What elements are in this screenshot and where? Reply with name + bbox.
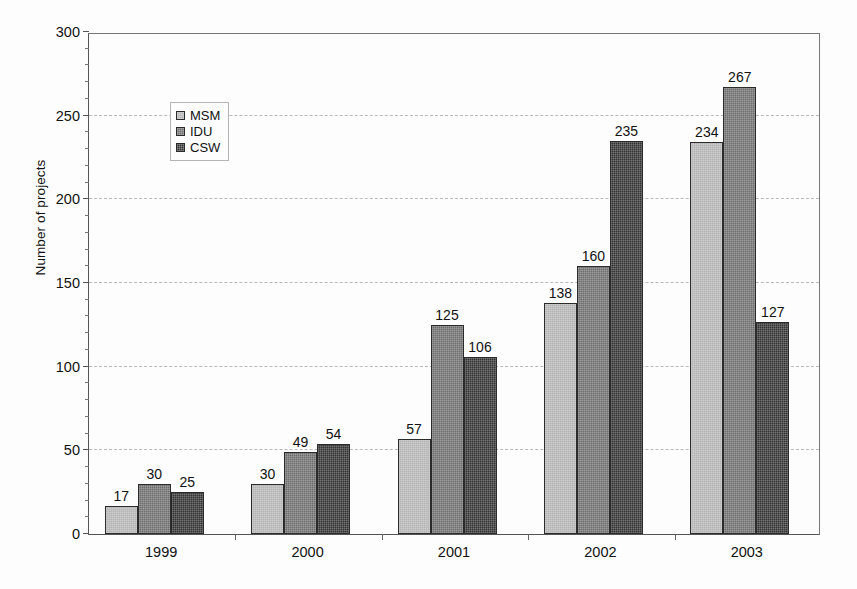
bar-value-label: 30 bbox=[260, 466, 276, 482]
bar: 234 bbox=[690, 142, 723, 534]
bar: 125 bbox=[431, 325, 464, 534]
y-tick-label: 50 bbox=[64, 442, 80, 458]
legend-item: MSM bbox=[176, 108, 220, 123]
bar: 106 bbox=[464, 357, 497, 534]
x-tick-label: 2003 bbox=[731, 544, 763, 560]
bar: 160 bbox=[577, 266, 610, 534]
bar: 30 bbox=[138, 484, 171, 534]
y-tick-label: 100 bbox=[56, 359, 80, 375]
y-tick-label: 200 bbox=[56, 191, 80, 207]
bar-value-label: 127 bbox=[761, 304, 784, 320]
bar-value-label: 138 bbox=[549, 285, 572, 301]
bar: 54 bbox=[317, 444, 350, 534]
bar-value-label: 106 bbox=[468, 339, 491, 355]
legend-label: IDU bbox=[190, 125, 212, 138]
y-tick-label: 300 bbox=[56, 24, 80, 40]
bar-value-label: 125 bbox=[435, 307, 458, 323]
y-tick-label: 150 bbox=[56, 275, 80, 291]
legend-label: CSW bbox=[190, 141, 220, 154]
legend: MSMIDUCSW bbox=[170, 102, 229, 161]
y-tick-label: 250 bbox=[56, 108, 80, 124]
x-tick-label: 1999 bbox=[145, 544, 177, 560]
bar: 235 bbox=[610, 141, 643, 534]
x-tick bbox=[235, 534, 236, 540]
y-axis-title: Number of projects bbox=[33, 118, 48, 318]
bar-value-label: 30 bbox=[146, 466, 162, 482]
y-tick-label: 0 bbox=[72, 526, 80, 542]
bar: 17 bbox=[105, 506, 138, 534]
bar-value-label: 57 bbox=[406, 421, 422, 437]
bar: 49 bbox=[284, 452, 317, 534]
x-tick-label: 2001 bbox=[438, 544, 470, 560]
bar-value-label: 234 bbox=[695, 124, 718, 140]
bar-value-label: 25 bbox=[179, 474, 195, 490]
x-tick-label: 2000 bbox=[291, 544, 323, 560]
bar: 25 bbox=[171, 492, 204, 534]
bar: 127 bbox=[756, 322, 789, 535]
bar: 30 bbox=[251, 484, 284, 534]
legend-item: CSW bbox=[176, 140, 220, 155]
legend-swatch-icon bbox=[176, 111, 185, 120]
x-tick-label: 2002 bbox=[584, 544, 616, 560]
legend-label: MSM bbox=[190, 109, 220, 122]
x-tick bbox=[382, 534, 383, 540]
bar-value-label: 267 bbox=[728, 69, 751, 85]
bar: 267 bbox=[723, 87, 756, 534]
legend-item: IDU bbox=[176, 124, 220, 139]
bar-value-label: 17 bbox=[113, 488, 129, 504]
bar: 138 bbox=[544, 303, 577, 534]
bar-value-label: 49 bbox=[293, 434, 309, 450]
bar-value-label: 235 bbox=[615, 123, 638, 139]
legend-swatch-icon bbox=[176, 127, 185, 136]
bar: 57 bbox=[398, 439, 431, 534]
x-tick bbox=[528, 534, 529, 540]
bar-chart: Number of projects 050100150200250300 17… bbox=[0, 0, 857, 589]
legend-swatch-icon bbox=[176, 143, 185, 152]
x-tick bbox=[675, 534, 676, 540]
y-tick bbox=[83, 31, 89, 32]
bar-value-label: 54 bbox=[326, 426, 342, 442]
bar-value-label: 160 bbox=[582, 248, 605, 264]
